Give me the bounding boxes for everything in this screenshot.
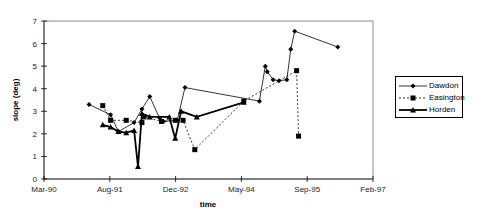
legend-label: Dawdon — [429, 81, 458, 90]
data-point — [263, 64, 268, 69]
legend-label: Horden — [429, 105, 455, 114]
data-point — [183, 85, 188, 90]
x-tick-label: Feb-97 — [360, 185, 386, 194]
data-point — [288, 47, 293, 52]
legend-item-horden: Horden — [398, 104, 462, 116]
data-point — [296, 134, 301, 139]
triangle-marker-icon — [398, 105, 428, 115]
series-horden — [100, 99, 247, 169]
data-point — [87, 102, 92, 107]
y-axis-title: slope (deg) — [11, 78, 20, 121]
data-point — [172, 135, 178, 141]
y-tick-label: 2 — [33, 130, 38, 139]
x-tick-label: Aug-91 — [97, 185, 123, 194]
legend-item-easington: Easington — [398, 92, 462, 104]
data-point — [135, 164, 141, 170]
data-point — [159, 119, 164, 124]
y-tick-label: 0 — [33, 175, 38, 184]
data-point — [277, 78, 282, 83]
legend: Dawdon Easington Horden — [395, 76, 463, 118]
x-tick-label: Sep-95 — [294, 185, 320, 194]
data-point — [335, 44, 340, 49]
data-point — [100, 103, 105, 108]
data-point — [147, 94, 152, 99]
data-point — [132, 120, 137, 125]
series-easington — [100, 68, 301, 152]
square-marker-icon — [398, 93, 428, 103]
y-tick-label: 6 — [33, 40, 38, 49]
series-layer — [87, 29, 341, 169]
y-tick-label: 7 — [33, 17, 38, 26]
data-point — [257, 99, 262, 104]
data-point — [292, 29, 297, 34]
data-point — [192, 147, 197, 152]
y-axis-ticks: 01234567 — [33, 17, 47, 184]
y-tick-label: 3 — [33, 107, 38, 116]
data-point — [173, 118, 178, 123]
x-tick-label: Mar-90 — [31, 185, 57, 194]
y-tick-label: 5 — [33, 62, 38, 71]
diamond-marker-icon — [398, 81, 428, 91]
y-tick-label: 4 — [33, 85, 38, 94]
data-point — [284, 77, 289, 82]
legend-label: Easington — [429, 93, 465, 102]
data-point — [294, 68, 299, 73]
plot-area — [44, 21, 373, 179]
y-tick-label: 1 — [33, 152, 38, 161]
data-point — [108, 118, 113, 123]
legend-item-dawdon: Dawdon — [398, 80, 462, 92]
x-axis-title: time — [200, 200, 217, 209]
data-point — [181, 118, 186, 123]
x-tick-label: May-94 — [228, 185, 255, 194]
x-tick-label: Dec-92 — [163, 185, 189, 194]
data-point — [178, 108, 184, 114]
data-point — [124, 118, 129, 123]
